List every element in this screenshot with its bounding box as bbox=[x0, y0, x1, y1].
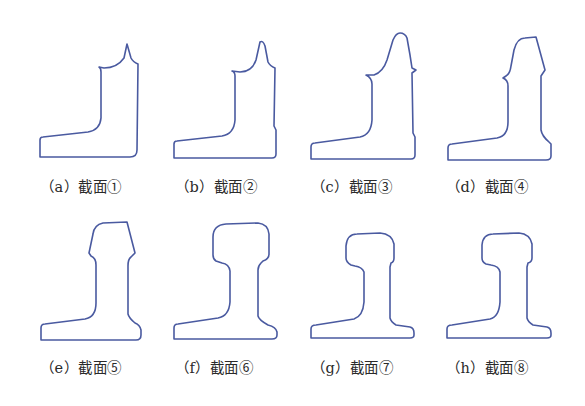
section-a-outline bbox=[40, 44, 138, 157]
panel-label-f: （f）截面⑥ bbox=[175, 356, 253, 377]
section-d-outline bbox=[448, 37, 551, 160]
panel-label-h: （h）截面⑧ bbox=[446, 356, 528, 377]
rail-sections-figure bbox=[0, 0, 585, 406]
panel-label-a: （a）截面① bbox=[40, 175, 122, 196]
panel-label-c: （c）截面③ bbox=[311, 175, 392, 196]
panel-label-g: （g）截面⑦ bbox=[311, 356, 393, 377]
section-g-outline bbox=[311, 233, 414, 338]
section-f-outline bbox=[174, 223, 277, 339]
panel-label-d: （d）截面④ bbox=[446, 175, 528, 196]
panel-label-b: （b）截面② bbox=[175, 175, 257, 196]
section-b-outline bbox=[174, 42, 276, 159]
section-e-outline bbox=[41, 222, 141, 340]
section-c-outline bbox=[311, 33, 416, 159]
panel-label-e: （e）截面⑤ bbox=[40, 356, 122, 377]
section-h-outline bbox=[447, 233, 551, 338]
